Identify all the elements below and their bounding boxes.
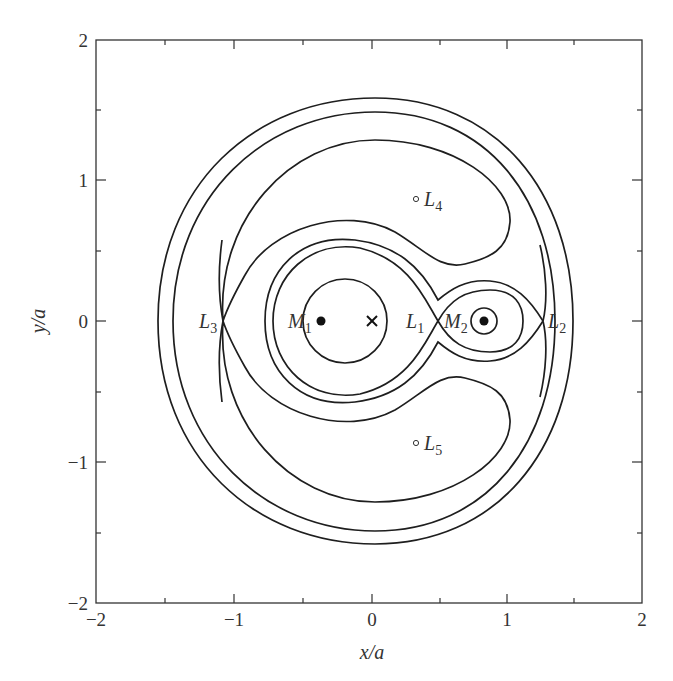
y-tick-labels: 2 1 0 −1 −2 [68,30,88,614]
y-tick-label: −2 [68,593,88,614]
m1-label: M1 [287,310,312,336]
m1-mass-dot [317,317,326,326]
l3-label: L3 [198,310,217,336]
y-axis-label: y/a [27,309,50,335]
l4-label: L4 [423,188,442,214]
x-ticks-bottom [165,594,574,603]
y-tick-label: 2 [79,30,89,51]
m1-inner-circle [303,279,387,363]
x-axis-label: x/a [359,641,384,663]
contour-lines [158,98,573,544]
l2-label: L2 [547,310,566,336]
x-ticks-top [165,40,574,49]
l5-label: L5 [423,432,442,458]
y-ticks-right [632,110,642,533]
l3-outer-branch [219,240,223,402]
y-tick-label: 1 [79,170,89,191]
x-tick-label: 1 [502,609,512,630]
y-tick-label: 0 [79,311,89,332]
l5-marker [413,440,418,445]
y-ticks-left [96,110,106,533]
m2-label: M2 [443,310,468,336]
l1-label: L1 [405,310,424,336]
x-tick-label: −1 [224,609,244,630]
x-tick-label: 2 [637,609,647,630]
x-tick-label: 0 [367,609,377,630]
x-tick-label: −2 [86,609,106,630]
l4-marker [413,196,418,201]
roche-potential-figure: −2 −1 0 1 2 2 1 0 −1 −2 x/a y/a [0,0,673,681]
y-tick-label: −1 [68,452,88,473]
center-of-mass-cross-icon [367,316,377,326]
m2-mass-dot [480,317,489,326]
outermost-contour [158,98,573,544]
x-tick-labels: −2 −1 0 1 2 [86,609,647,630]
